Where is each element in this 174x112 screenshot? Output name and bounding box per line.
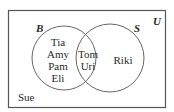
- member-label: Eli: [52, 72, 65, 84]
- member-label: Tia: [51, 36, 65, 48]
- universe-label: U: [153, 15, 162, 27]
- set-s-label: S: [134, 22, 140, 34]
- member-label: Uri: [81, 60, 96, 72]
- member-label: Riki: [114, 54, 133, 66]
- set-b-label: B: [35, 22, 43, 34]
- member-label: Pam: [48, 60, 68, 72]
- venn-diagram: U B S Tia Amy Pam Eli Tom Uri Riki Sue: [0, 0, 174, 112]
- member-label: Amy: [47, 48, 70, 60]
- member-label: Tom: [78, 48, 98, 60]
- region-only-s: Riki: [114, 54, 133, 66]
- member-label: Sue: [18, 91, 35, 103]
- region-neither: Sue: [18, 91, 35, 103]
